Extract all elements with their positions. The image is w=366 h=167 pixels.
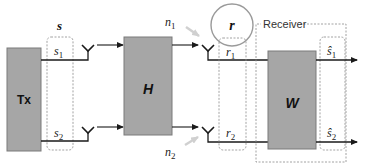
s1-label: s1 [54, 44, 63, 60]
r2-label: r2 [226, 126, 235, 142]
antenna-icon [202, 45, 214, 51]
channel-block: H [124, 37, 172, 135]
r-vector-label: r [229, 18, 235, 33]
receiver-label: Receiver [263, 18, 307, 30]
receive-vector-group: r r1 r2 [211, 4, 253, 150]
antenna-icon [82, 45, 94, 51]
s-vector-label: s [56, 18, 62, 33]
noise-n2: n2 [165, 137, 198, 161]
noise-arrow-icon [186, 27, 199, 36]
tx-label: Tx [17, 93, 31, 107]
s2-hat-label: ŝ2 [327, 126, 336, 142]
transmit-vector-group: s s1 s2 [47, 18, 73, 150]
antenna-icon [202, 127, 214, 133]
mimo-diagram: Tx s s1 s2 H n1 n2 [0, 0, 366, 167]
antenna-icon [82, 127, 94, 133]
channel-label: H [143, 81, 154, 97]
n2-label: n2 [165, 145, 176, 161]
noise-n1: n1 [165, 15, 199, 36]
estimate-vector-group: ŝ1 ŝ2 [316, 37, 357, 150]
equalizer-label: W [285, 95, 300, 111]
noise-arrow-icon [185, 137, 198, 145]
n1-label: n1 [165, 15, 176, 31]
s2-label: s2 [54, 126, 63, 142]
r1-label: r1 [226, 45, 235, 61]
tx-block: Tx [7, 48, 41, 151]
s1-hat-label: ŝ1 [327, 44, 336, 60]
equalizer-block: W [268, 51, 316, 149]
